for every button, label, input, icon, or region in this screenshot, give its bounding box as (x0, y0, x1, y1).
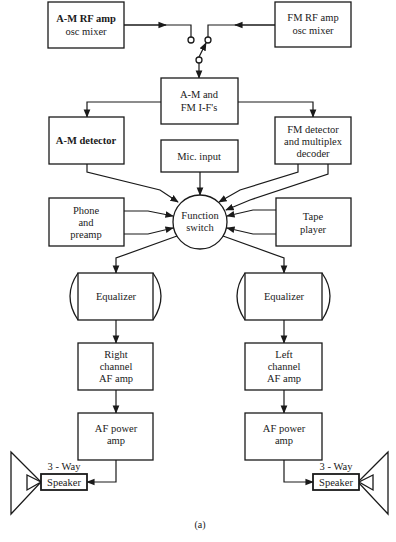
block-tape-player: Tape player (276, 198, 351, 246)
block-fm-detector: FM detector and multiplex decoder (275, 117, 351, 164)
svg-text:osc mixer: osc mixer (292, 25, 334, 36)
wire-if-to-am-det (87, 102, 161, 117)
block-equalizer-left: Equalizer (237, 273, 330, 320)
stereo-block-diagram: A-M RF amp osc mixer FM RF amp osc mixer… (0, 0, 396, 542)
wire-tape-to-func-2 (227, 228, 276, 234)
block-am-rf-amp: A-M RF amp osc mixer (48, 2, 124, 48)
svg-text:Phone: Phone (73, 205, 100, 216)
svg-text:3 - Way: 3 - Way (320, 461, 354, 472)
svg-text:osc mixer: osc mixer (65, 26, 107, 37)
svg-text:player: player (300, 224, 327, 235)
svg-text:amp: amp (107, 435, 125, 446)
block-left-af-power-amp: AF power amp (245, 413, 322, 460)
svg-text:preamp: preamp (70, 229, 102, 240)
wire-func-to-eq-right (116, 236, 177, 273)
svg-text:Mic. input: Mic. input (177, 151, 221, 162)
svg-text:Speaker: Speaker (319, 477, 353, 488)
speaker-right: Speaker 3 - Way (313, 452, 388, 514)
svg-text:AF amp: AF amp (267, 373, 301, 384)
svg-text:Tape: Tape (303, 211, 324, 222)
block-phone-preamp: Phone and preamp (49, 198, 124, 246)
svg-text:FM I-F's: FM I-F's (181, 102, 218, 113)
svg-text:channel: channel (100, 361, 133, 372)
block-fm-rf-amp: FM RF amp osc mixer (275, 2, 351, 47)
wire-am-rf-to-switch (124, 25, 191, 37)
wire-left-pwr-to-speaker (284, 460, 313, 482)
wire-fm-rf-to-switch (208, 25, 275, 37)
wire-phone-to-func-1 (124, 211, 173, 216)
wire-phone-to-func-2 (124, 228, 173, 234)
band-switch-arm (199, 43, 206, 57)
svg-text:switch: switch (186, 222, 214, 233)
svg-text:A-M and: A-M and (180, 89, 219, 100)
wire-func-to-eq-left (223, 236, 284, 273)
figure-caption: (a) (194, 519, 205, 531)
svg-text:A-M detector: A-M detector (56, 135, 117, 146)
svg-text:channel: channel (268, 361, 301, 372)
svg-text:FM detector: FM detector (287, 124, 339, 135)
svg-text:Right: Right (104, 349, 127, 360)
band-switch (188, 37, 211, 63)
svg-text:Speaker: Speaker (47, 477, 81, 488)
svg-text:AF power: AF power (95, 423, 138, 434)
switch-pivot (196, 57, 202, 63)
svg-text:decoder: decoder (296, 148, 330, 159)
svg-text:Left: Left (275, 349, 293, 360)
svg-text:and: and (78, 217, 94, 228)
wire-right-pwr-to-speaker (87, 460, 116, 482)
block-left-channel-af-amp: Left channel AF amp (245, 343, 322, 390)
block-right-channel-af-amp: Right channel AF amp (78, 343, 153, 390)
svg-text:A-M RF amp: A-M RF amp (56, 13, 116, 24)
block-equalizer-right: Equalizer (70, 273, 161, 320)
switch-contact-fm (205, 37, 211, 43)
block-mic-input: Mic. input (161, 140, 238, 172)
block-am-fm-if: A-M and FM I-F's (161, 78, 238, 124)
speaker-left: Speaker 3 - Way (11, 452, 87, 514)
switch-contact-am (188, 37, 194, 43)
block-am-detector: A-M detector (49, 117, 124, 164)
svg-text:amp: amp (275, 435, 293, 446)
block-right-af-power-amp: AF power amp (78, 413, 153, 460)
svg-text:Equalizer: Equalizer (264, 291, 305, 302)
svg-text:FM RF amp: FM RF amp (287, 12, 338, 23)
svg-text:3 - Way: 3 - Way (48, 461, 82, 472)
wire-tape-to-func-1 (227, 210, 276, 216)
svg-text:Equalizer: Equalizer (96, 291, 137, 302)
svg-text:AF power: AF power (263, 423, 306, 434)
svg-text:Function: Function (181, 210, 219, 221)
svg-text:AF amp: AF amp (99, 373, 133, 384)
svg-text:and multiplex: and multiplex (284, 136, 343, 147)
wire-if-to-fm-det (238, 102, 313, 117)
block-function-switch: Function switch (173, 195, 227, 249)
